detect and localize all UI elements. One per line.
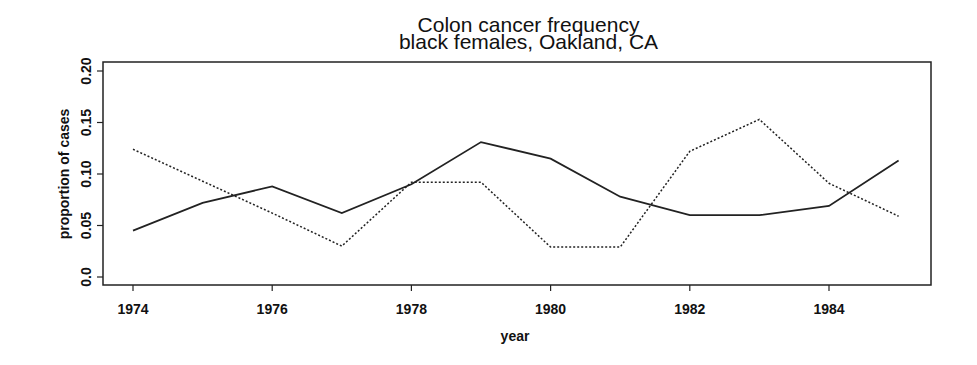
y-axis: 0.00.050.100.150.20 — [78, 57, 103, 287]
x-tick-label: 1982 — [674, 301, 705, 317]
x-axis: 197419761978198019821984 — [117, 285, 844, 317]
x-tick-label: 1984 — [813, 301, 844, 317]
y-axis-label: proportion of cases — [56, 108, 72, 239]
x-tick-label: 1974 — [117, 301, 148, 317]
y-tick-label: 0.05 — [78, 212, 94, 239]
x-axis-label: year — [501, 328, 530, 344]
series-line-dotted — [133, 119, 899, 247]
y-tick-label: 0.15 — [78, 109, 94, 136]
y-tick-label: 0.10 — [78, 160, 94, 187]
data-series — [133, 119, 899, 247]
y-tick-label: 0.20 — [78, 57, 94, 84]
line-chart: 0.00.050.100.150.20 19741976197819801982… — [0, 0, 977, 365]
x-tick-label: 1976 — [257, 301, 288, 317]
x-tick-label: 1980 — [535, 301, 566, 317]
series-line-solid — [133, 142, 899, 231]
y-tick-label: 0.0 — [78, 267, 94, 287]
x-tick-label: 1978 — [396, 301, 427, 317]
plot-frame — [103, 62, 931, 285]
